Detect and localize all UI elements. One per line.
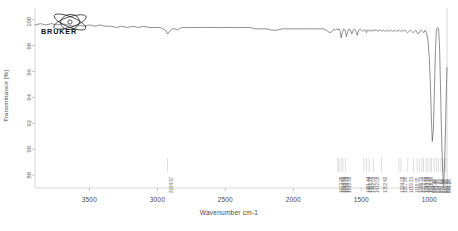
x-axis-title: Wavenumber cm-1 [0, 209, 458, 216]
x-tick-label: 2000 [273, 196, 313, 203]
peak-label: 1412.08 [375, 177, 380, 193]
peak-label: 1352.42 [383, 177, 388, 193]
x-tick-label: 3000 [137, 196, 177, 203]
bruker-wordmark: BRUKER [41, 27, 77, 36]
x-tick-label: 1000 [409, 196, 449, 203]
y-tick-label: 98 [26, 43, 32, 65]
bruker-logo: BRUKER [40, 13, 102, 39]
y-tick-marks [32, 20, 35, 175]
peak-label: 1207.86 [403, 177, 408, 193]
y-tick-label: 96 [26, 69, 32, 91]
peak-label: 1159.33 [409, 177, 414, 193]
y-tick-label: 92 [26, 120, 32, 142]
x-tick-label: 1500 [341, 196, 381, 203]
peak-label: 2924.97 [169, 177, 174, 193]
peak-label: 880.25 [447, 179, 452, 193]
ftir-spectrum-figure: BRUKER Transmittance [%] Wavenumber cm-1… [0, 0, 458, 231]
y-tick-label: 90 [26, 146, 32, 168]
x-tick-label: 2500 [205, 196, 245, 203]
y-tick-label: 100 [26, 17, 32, 39]
x-tick-label: 3500 [69, 196, 109, 203]
spectrum-trace [35, 24, 447, 186]
y-axis-title: Transmittance [%] [2, 48, 14, 144]
peak-label: 1616.31 [347, 177, 352, 193]
y-tick-label: 88 [26, 172, 32, 194]
y-tick-label: 94 [26, 94, 32, 116]
peak-tick-marks [168, 158, 446, 172]
